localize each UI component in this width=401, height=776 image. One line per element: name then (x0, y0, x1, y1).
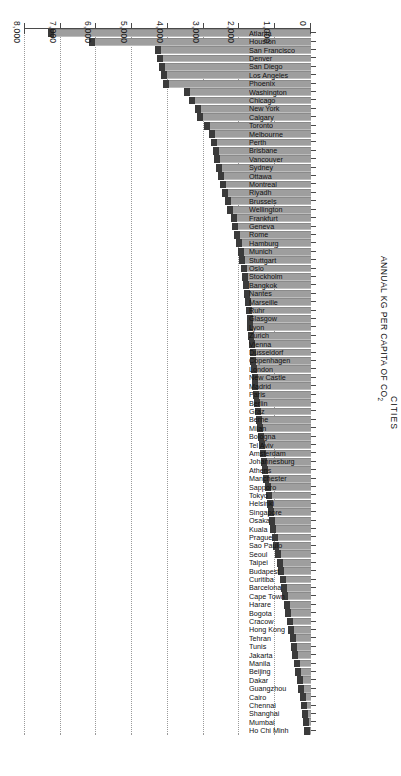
bar-end-cap (238, 248, 244, 256)
bar-end-cap (240, 256, 246, 264)
bar-end-cap (220, 181, 226, 189)
x-tick-label-2000: 2,000 (226, 21, 236, 43)
bar-end-cap (161, 71, 167, 79)
category-label-paris: Paris (249, 390, 319, 399)
x-tick-label-7000: 7,000 (48, 21, 58, 43)
bar-end-cap (157, 55, 163, 63)
bar-end-cap (222, 189, 228, 197)
category-label-sydney: Sydney (249, 163, 319, 172)
bars-layer: AtlantaHoustonSan FranciscoDenverSan Die… (25, 29, 311, 735)
bar-end-cap (197, 113, 203, 121)
category-label-guangzhou: Guangzhou (249, 684, 319, 693)
category-label-taipei: Taipei (249, 558, 319, 567)
category-label-zurich: Zurich (249, 331, 319, 340)
x-axis-title-subscript: 2 (377, 398, 384, 402)
x-axis-title-text: ANNUAL KG PER CAPITA OF CO2 (379, 256, 389, 402)
bar-end-cap (184, 88, 190, 96)
bar-end-cap (231, 214, 237, 222)
bar-end-cap (189, 97, 195, 105)
category-label-toronto: Toronto (249, 121, 319, 130)
bar-end-cap (204, 122, 210, 130)
x-tick-label-6000: 6,000 (83, 21, 93, 43)
category-label-tunis: Tunis (249, 642, 319, 651)
x-tick-label-1000: 1,000 (262, 21, 272, 43)
category-label-phoenix: Phoenix (249, 79, 319, 88)
bar-end-cap (213, 147, 219, 155)
x-tick-5000 (131, 23, 132, 29)
category-label-san-diego: San Diego (249, 62, 319, 71)
category-label-johannesburg: Johannesburg (249, 457, 319, 466)
bar-end-cap (163, 80, 169, 88)
bar-end-cap (232, 223, 238, 231)
x-tick-label-4000: 4,000 (155, 21, 165, 43)
bar-end-cap (156, 46, 162, 54)
bar-end-cap (241, 265, 247, 273)
bar-end-cap (159, 63, 165, 71)
category-label-berne: Berne (249, 415, 319, 424)
bar-end-cap (209, 130, 215, 138)
category-label-houston: Houston (249, 37, 319, 46)
x-tick-6000 (96, 23, 97, 29)
category-label-ho-chi-minh: Ho Chi Minh (249, 726, 319, 735)
x-tick-7000 (60, 23, 61, 29)
rotated-figure-container: AtlantaHoustonSan FranciscoDenverSan Die… (0, 0, 401, 776)
x-tick-label-3000: 3,000 (191, 21, 201, 43)
y-axis-title: CITIES (389, 396, 399, 430)
bar-end-cap (225, 197, 231, 205)
bar-end-cap (211, 139, 217, 147)
category-label-new-york: New York (249, 104, 319, 113)
co2-per-capita-bar-chart: AtlantaHoustonSan FranciscoDenverSan Die… (0, 0, 401, 776)
bar-end-cap (227, 206, 233, 214)
bar-end-cap (242, 273, 248, 281)
category-label-harare: Harare (249, 600, 319, 609)
bar-end-cap (214, 155, 220, 163)
x-tick-4000 (167, 23, 168, 29)
bar-end-cap (236, 239, 242, 247)
x-tick-8000 (24, 23, 25, 29)
category-label-wellington: Wellington (249, 205, 319, 214)
category-label-osaka: Osaka (249, 516, 319, 525)
bar-end-cap (216, 164, 222, 172)
category-label-new-castle: New Castle (249, 373, 319, 382)
x-tick-3000 (203, 23, 204, 29)
category-label-munich: Munich (249, 247, 319, 256)
x-axis-title: ANNUAL KG PER CAPITA OF CO2 (377, 256, 389, 402)
bar-end-cap (218, 172, 224, 180)
category-label-bologna: Bologna (249, 432, 319, 441)
category-label-nantes: Nantes (249, 289, 319, 298)
bar-end-cap (195, 105, 201, 113)
bar-end-cap (234, 231, 240, 239)
x-tick-label-5000: 5,000 (119, 21, 129, 43)
x-tick-1000 (274, 23, 275, 29)
x-tick-label-0: 0 (298, 21, 308, 26)
x-tick-2000 (239, 23, 240, 29)
x-tick-0 (310, 23, 311, 29)
x-tick-label-8000: 8,000 (12, 21, 22, 43)
category-label-manchester: Manchester (249, 474, 319, 483)
